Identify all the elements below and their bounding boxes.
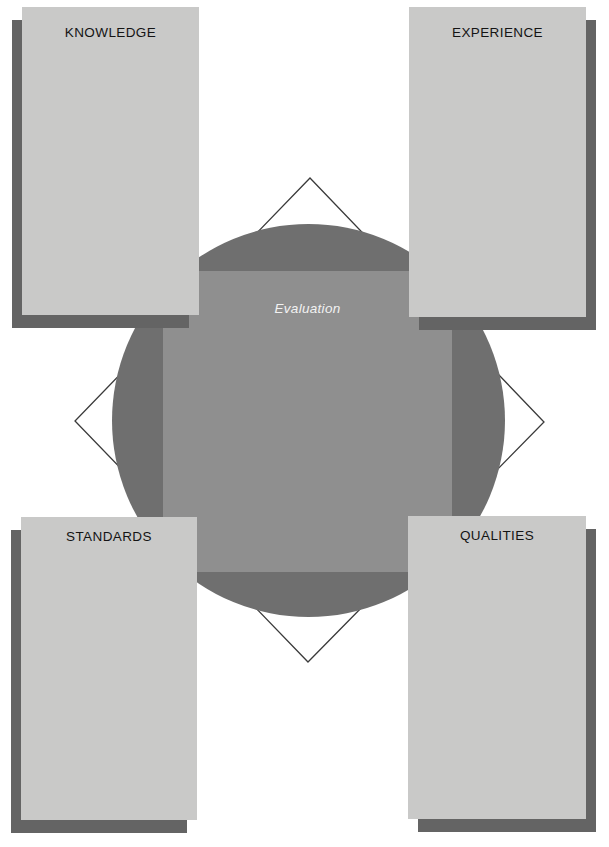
panel-experience: EXPERIENCE — [409, 7, 586, 317]
panel-label-qualities: QUALITIES — [408, 516, 586, 543]
panel-qualities: QUALITIES — [408, 516, 586, 819]
panel-label-experience: EXPERIENCE — [409, 7, 586, 40]
panel-standards: STANDARDS — [21, 517, 197, 820]
panel-label-knowledge: KNOWLEDGE — [22, 7, 199, 40]
panel-label-standards: STANDARDS — [21, 517, 197, 544]
panel-knowledge: KNOWLEDGE — [22, 7, 199, 315]
evaluation-diagram: Evaluation KNOWLEDGE EXPERIENCE STANDARD… — [0, 0, 609, 847]
